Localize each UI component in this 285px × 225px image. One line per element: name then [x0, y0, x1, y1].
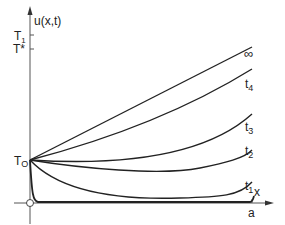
- curve-infinity: [30, 47, 252, 160]
- curve-t3: [30, 114, 252, 162]
- curve-t4: [30, 69, 252, 160]
- x-axis-arrow: [265, 201, 274, 206]
- label-t4: t4: [245, 77, 253, 93]
- curve-t2: [30, 150, 252, 171]
- origin-marker: [27, 200, 34, 207]
- label-Tstar: T*: [13, 42, 25, 56]
- y-axis-label: u(x,t): [34, 14, 61, 28]
- label-T0: TO: [14, 154, 28, 169]
- y-axis-arrow: [28, 6, 33, 15]
- label-t1: t1: [245, 179, 253, 195]
- x-end-label-a: a: [248, 206, 255, 220]
- diagram: u(x,t) x a T1 T* TO ∞ t4 t3 t2 t1: [0, 0, 285, 225]
- curve-t1: [30, 160, 252, 198]
- label-infinity: ∞: [244, 46, 253, 61]
- x-axis-label: x: [254, 185, 260, 199]
- label-t2: t2: [245, 144, 253, 160]
- label-t3: t3: [245, 120, 253, 136]
